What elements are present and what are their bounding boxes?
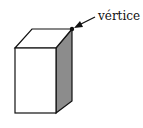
vertex-label: vértice xyxy=(97,9,140,23)
vertex-dot xyxy=(70,27,74,31)
arrow-head-icon xyxy=(74,21,83,28)
prism-diagram: vértice xyxy=(0,0,143,128)
front-face xyxy=(15,48,56,113)
arrow-line xyxy=(79,17,95,25)
